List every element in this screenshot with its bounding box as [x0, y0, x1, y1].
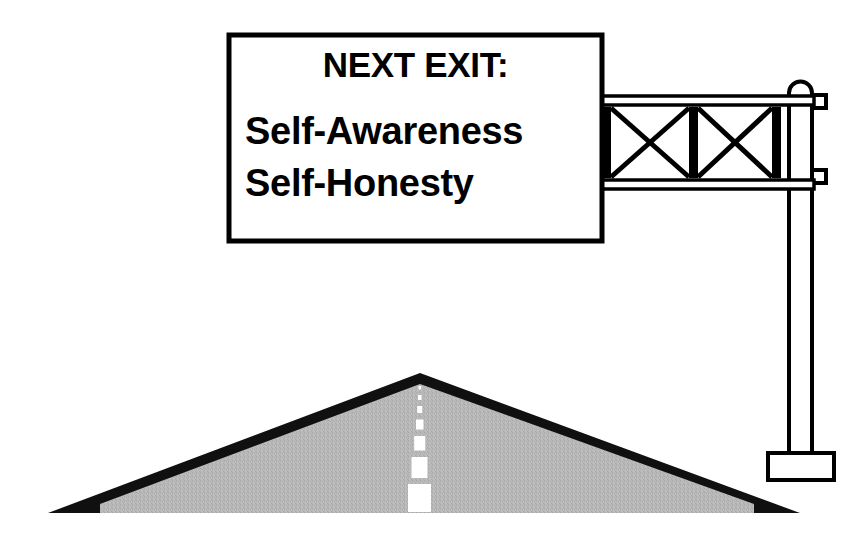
- truss-top-chord: [600, 96, 814, 105]
- center-line-dash: [416, 420, 424, 430]
- center-line-dash: [418, 395, 422, 400]
- center-line-dash: [414, 436, 425, 451]
- scene-svg: [0, 0, 867, 539]
- truss-bottom-chord: [600, 180, 814, 189]
- gantry-pole: [789, 82, 812, 454]
- center-line-dash: [408, 484, 431, 512]
- pole-base-footing: [768, 453, 834, 480]
- center-line-dash: [419, 386, 422, 390]
- illustration-canvas: NEXT EXIT: Self-Awareness Self-Honesty: [0, 0, 867, 539]
- sign-panel-board: [229, 35, 602, 241]
- gantry-truss-group: [600, 96, 814, 189]
- truss-post-right: [772, 107, 781, 178]
- center-line-dash: [412, 457, 428, 478]
- truss-post-middle: [689, 107, 698, 178]
- road-group: [48, 373, 800, 513]
- center-line-dash: [417, 406, 422, 413]
